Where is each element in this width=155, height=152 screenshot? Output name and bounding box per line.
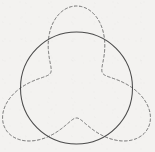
geometry-figure: [0, 0, 155, 152]
figure-canvas: [0, 0, 155, 152]
figure-background: [0, 0, 155, 152]
